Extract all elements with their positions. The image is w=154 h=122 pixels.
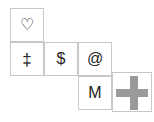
- double-dagger-icon: ‡: [22, 51, 31, 68]
- tile-heart[interactable]: ♡: [10, 8, 44, 42]
- tile-double-dagger[interactable]: ‡: [10, 42, 44, 76]
- tile-at-sign[interactable]: @: [78, 42, 112, 76]
- heart-outline-icon: ♡: [20, 17, 34, 33]
- at-sign-icon: @: [87, 51, 103, 67]
- tile-letter-m[interactable]: M: [78, 76, 112, 110]
- tile-cross-shape[interactable]: [112, 72, 152, 112]
- dollar-sign-icon: $: [57, 51, 66, 67]
- gray-cross-horizontal-bar-icon: [116, 89, 148, 97]
- letter-m-icon: M: [88, 85, 101, 101]
- tile-dollar[interactable]: $: [44, 42, 78, 76]
- tile-board: ♡ ‡ $ @ M: [0, 0, 154, 122]
